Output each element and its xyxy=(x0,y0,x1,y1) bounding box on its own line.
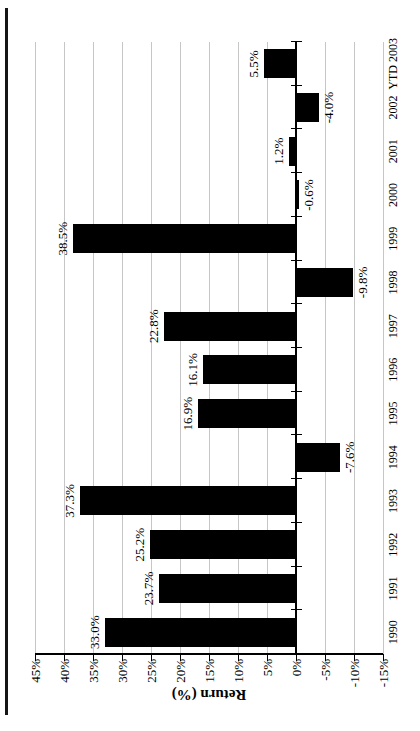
bar xyxy=(164,312,296,341)
value-tick-label: 5% xyxy=(260,659,275,703)
category-axis-line xyxy=(295,42,297,654)
category-axis-tick xyxy=(291,260,302,261)
bar-data-label: -4.0% xyxy=(321,76,337,140)
gridline xyxy=(180,42,181,654)
value-tick-label: 40% xyxy=(57,659,72,703)
category-axis-tick xyxy=(291,434,302,435)
value-tick-label: 0% xyxy=(289,659,304,703)
value-tick-label: 10% xyxy=(231,659,246,703)
value-tick-label: -15% xyxy=(376,659,391,703)
value-tick-label: 25% xyxy=(144,659,159,703)
bar-data-label: 25.2% xyxy=(132,513,148,577)
bar xyxy=(105,618,296,647)
value-tick-label: 45% xyxy=(28,659,43,703)
bar-data-label: -7.6% xyxy=(342,425,358,489)
gridline xyxy=(93,42,94,654)
value-tick-label: 35% xyxy=(86,659,101,703)
bar-data-label: 5.5% xyxy=(246,32,262,96)
gridline xyxy=(64,42,65,654)
category-axis-tick xyxy=(291,303,302,304)
bar xyxy=(289,137,296,166)
bar-data-label: 16.1% xyxy=(185,338,201,402)
category-axis-tick xyxy=(291,41,302,42)
category-axis-tick xyxy=(291,391,302,392)
bar xyxy=(80,487,296,516)
category-axis-tick xyxy=(291,609,302,610)
gridline xyxy=(267,42,268,654)
bar xyxy=(198,399,296,428)
bar-data-label: 37.3% xyxy=(62,469,78,533)
bar xyxy=(264,49,296,78)
category-axis-tick xyxy=(291,478,302,479)
gridline xyxy=(122,42,123,654)
document-page: Return (%) 45%40%35%30%25%20%15%10%5%0%-… xyxy=(0,0,420,731)
gridline xyxy=(238,42,239,654)
gridline xyxy=(354,42,355,654)
bar-data-label: 33.0% xyxy=(87,600,103,664)
bar xyxy=(296,181,299,210)
category-label: YTD 2003 xyxy=(386,32,400,96)
value-tick-label: 15% xyxy=(202,659,217,703)
bar xyxy=(150,530,296,559)
category-axis-tick xyxy=(291,566,302,567)
value-tick-label: -5% xyxy=(318,659,333,703)
value-tick-label: -10% xyxy=(347,659,362,703)
annual-returns-bar-chart: Return (%) 45%40%35%30%25%20%15%10%5%0%-… xyxy=(0,0,420,731)
bar xyxy=(159,574,296,603)
gridline xyxy=(209,42,210,654)
bar xyxy=(296,443,340,472)
bar xyxy=(296,268,353,297)
category-axis-tick xyxy=(291,522,302,523)
bar-data-label: 22.8% xyxy=(146,294,162,358)
bar-data-label: 38.5% xyxy=(55,207,71,271)
category-axis-tick xyxy=(291,653,302,654)
gridline xyxy=(35,42,36,654)
category-axis-tick xyxy=(291,128,302,129)
gridline xyxy=(383,42,384,654)
value-tick-label: 20% xyxy=(173,659,188,703)
category-axis-tick xyxy=(291,347,302,348)
bar xyxy=(73,224,296,253)
bar xyxy=(203,355,296,384)
value-tick-label: 30% xyxy=(115,659,130,703)
bar xyxy=(296,93,319,122)
bar-data-label: -0.6% xyxy=(301,163,317,227)
category-axis-tick xyxy=(291,216,302,217)
category-axis-tick xyxy=(291,85,302,86)
bar-data-label: -9.8% xyxy=(355,250,371,314)
bar-data-label: 1.2% xyxy=(271,119,287,183)
category-axis-tick xyxy=(291,172,302,173)
page-rule-line xyxy=(5,8,8,715)
